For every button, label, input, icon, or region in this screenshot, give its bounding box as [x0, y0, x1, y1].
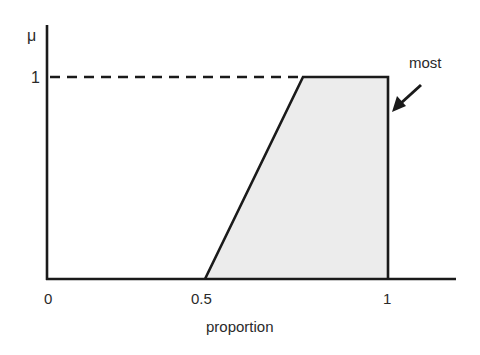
x-axis-label: proportion — [206, 318, 274, 335]
x-tick-1: 1 — [383, 290, 391, 307]
arrow-icon — [392, 85, 421, 112]
x-tick-0.5: 0.5 — [191, 290, 212, 307]
most-membership-area — [205, 77, 388, 279]
membership-chart — [0, 0, 480, 355]
y-axis-label: μ — [27, 27, 36, 45]
y-tick-1: 1 — [31, 69, 40, 87]
most-annotation: most — [409, 54, 442, 71]
x-tick-0: 0 — [44, 290, 52, 307]
